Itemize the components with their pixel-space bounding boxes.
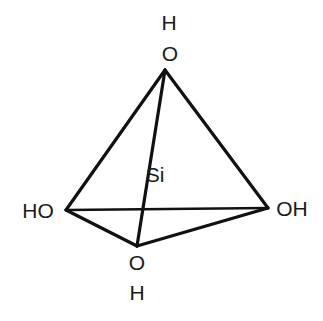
- edge-left-bottom: [66, 210, 137, 246]
- label-bottom-o: O: [129, 251, 145, 274]
- edge-top-left: [66, 70, 165, 210]
- label-bottom-h: H: [129, 281, 144, 304]
- atom-labels: H O Si HO OH O H: [22, 11, 308, 304]
- label-top-h: H: [161, 11, 176, 34]
- label-center-si: Si: [146, 163, 165, 186]
- edge-top-right: [165, 70, 268, 208]
- label-right-oh: OH: [276, 197, 308, 220]
- tetrahedron-edges: [66, 70, 268, 246]
- edge-left-right: [66, 208, 268, 210]
- edge-top-bottom: [137, 70, 165, 246]
- edge-bottom-right: [137, 208, 268, 246]
- tetrahedron-diagram: H O Si HO OH O H: [0, 0, 323, 321]
- label-top-o: O: [162, 42, 178, 65]
- label-left-ho: HO: [22, 199, 54, 222]
